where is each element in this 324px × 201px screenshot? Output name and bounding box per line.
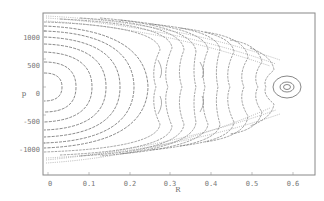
xtick-0.1: 0.1 — [83, 180, 96, 188]
plot-frame — [43, 13, 315, 175]
xtick-0.4: 0.4 — [205, 180, 218, 188]
central-orbits — [44, 26, 148, 148]
ytick-500: 500 — [27, 62, 40, 70]
phase-plot: 1000 500 0 -500 -1000 p 0 0.1 0.2 0.3 0.… — [0, 0, 324, 201]
ytick-neg1000: -1000 — [19, 146, 40, 154]
chaotic-band — [46, 16, 280, 163]
ytick-0: 0 — [36, 90, 40, 98]
xtick-0: 0 — [48, 180, 52, 188]
xtick-0.5: 0.5 — [246, 180, 259, 188]
ytick-neg500: -500 — [23, 118, 40, 126]
island-chain — [158, 60, 204, 114]
satellite-island — [273, 76, 301, 98]
ytick-1000: 1000 — [23, 34, 40, 42]
x-axis-label: R — [175, 186, 181, 194]
xtick-0.6: 0.6 — [287, 180, 300, 188]
resonance-orbits — [44, 18, 274, 156]
y-axis-label: p — [22, 90, 27, 98]
xtick-0.2: 0.2 — [124, 180, 137, 188]
